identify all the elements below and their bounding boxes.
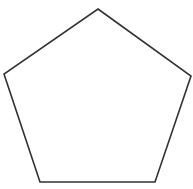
background	[0, 0, 193, 189]
diagram-canvas	[0, 0, 193, 189]
